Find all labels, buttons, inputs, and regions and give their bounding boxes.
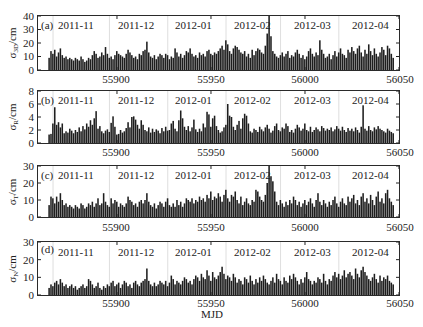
month-label: 2012-04 (352, 19, 389, 31)
month-label: 2011-12 (118, 169, 154, 181)
y-tick-label: 10 (14, 194, 34, 206)
chart-panel-c: (c) 2011-11 2011-12 2012-01 2012-02 2012… (37, 165, 400, 218)
month-label: 2012-03 (294, 169, 331, 181)
month-label: 2011-11 (58, 169, 94, 181)
month-label: 2012-01 (175, 94, 212, 106)
chart-panel-a: (a) 2011-11 2011-12 2012-01 2012-02 2012… (37, 15, 400, 71)
month-label: 2012-03 (294, 246, 331, 258)
panel-tag: (a) (41, 19, 53, 31)
y-tick-label: 2 (14, 124, 34, 136)
x-tick-label: 55950 (191, 221, 231, 233)
x-tick-label: 55950 (191, 73, 231, 85)
month-label: 2012-04 (352, 246, 389, 258)
y-tick-label: 40 (14, 10, 34, 22)
y-tick-label: 6 (14, 98, 34, 110)
x-tick-label: 56050 (380, 221, 420, 233)
month-label: 2011-12 (118, 94, 154, 106)
x-tick-label: 56000 (285, 73, 325, 85)
y-tick-label: 20 (14, 37, 34, 49)
month-label: 2012-01 (175, 169, 212, 181)
y-tick-label: 20 (14, 177, 34, 189)
y-tick-label: 0 (14, 137, 34, 149)
month-label: 2012-02 (234, 169, 271, 181)
month-label: 2011-12 (118, 19, 154, 31)
x-tick-label: 55900 (96, 221, 136, 233)
y-tick-label: 8 (14, 85, 34, 97)
y-tick-label: 30 (14, 23, 34, 35)
panel-tag: (c) (41, 169, 53, 181)
y-tick-label: 10 (14, 50, 34, 62)
y-tick-label: 30 (14, 236, 34, 248)
month-label: 2011-11 (58, 94, 94, 106)
y-tick-label: 30 (14, 160, 34, 172)
month-label: 2012-04 (352, 94, 389, 106)
month-label: 2012-02 (234, 94, 271, 106)
x-tick-label: 56000 (285, 221, 325, 233)
x-tick-label: 55900 (96, 73, 136, 85)
chart-panel-d: (d) 2011-11 2011-12 2012-01 2012-02 2012… (37, 241, 400, 296)
month-label: 2012-02 (234, 19, 271, 31)
x-tick-label: 56050 (380, 297, 420, 309)
y-tick-label: 10 (14, 271, 34, 283)
x-tick-label: 56000 (285, 297, 325, 309)
month-label: 2012-03 (294, 94, 331, 106)
panel-tag: (b) (41, 94, 54, 106)
x-tick-label: 56050 (380, 73, 420, 85)
x-tick-label: 56050 (380, 146, 420, 158)
month-label: 2012-01 (175, 246, 212, 258)
month-label: 2011-12 (118, 246, 154, 258)
x-tick-label: 55950 (191, 146, 231, 158)
month-label: 2012-02 (234, 246, 271, 258)
y-tick-label: 4 (14, 111, 34, 123)
month-label: 2012-03 (294, 19, 331, 31)
x-tick-label: 55900 (96, 297, 136, 309)
x-tick-label: 55900 (96, 146, 136, 158)
month-label: 2012-01 (175, 19, 212, 31)
y-tick-label: 0 (14, 289, 34, 301)
month-label: 2012-04 (352, 169, 389, 181)
month-label: 2011-11 (58, 19, 94, 31)
x-tick-label: 56000 (285, 146, 325, 158)
y-tick-label: 0 (14, 211, 34, 223)
y-tick-label: 0 (14, 64, 34, 76)
y-tick-label: 20 (14, 254, 34, 266)
month-label: 2011-11 (58, 246, 94, 258)
panel-tag: (d) (41, 243, 54, 255)
x-axis-label: MJD (192, 308, 232, 320)
chart-panel-b: (b) 2011-11 2011-12 2012-01 2012-02 2012… (37, 90, 400, 144)
